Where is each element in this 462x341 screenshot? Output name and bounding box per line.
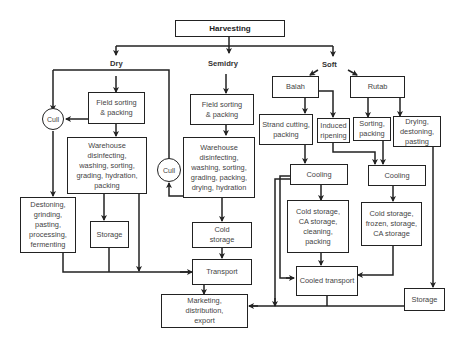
transport-label: Transport	[206, 267, 237, 277]
strand-cutting-label: Strand cutting, packing	[262, 120, 310, 140]
dry-destoning-label: Destoning, grinding, pasting, processing…	[29, 200, 67, 250]
dry-field-sorting-box: Field sorting & packing	[88, 92, 145, 124]
induced-ripening-label: Induced ripening	[320, 121, 346, 141]
dry-warehouse-label: Warehouse disinfecting, washing, sorting…	[76, 141, 137, 191]
soft-label: Soft	[322, 60, 337, 69]
semidry-label: Semidry	[208, 59, 238, 68]
cooled-transport-box: Cooled transport	[296, 266, 358, 296]
marketing-box: Marketing, distribution, export	[161, 294, 248, 328]
rutab-cooling-label: Cooling	[384, 171, 409, 181]
rutab-cooling-box: Cooling	[368, 165, 426, 186]
dry-label: Dry	[110, 59, 123, 68]
dry-warehouse-box: Warehouse disinfecting, washing, sorting…	[67, 137, 147, 194]
balah-cooling-box: Cooling	[290, 164, 348, 185]
cooled-transport-label: Cooled transport	[300, 276, 355, 286]
semidry-warehouse-box: Warehouse disinfecting, washing, sorting…	[183, 137, 255, 198]
harvesting-box: Harvesting	[175, 20, 285, 37]
semidry-cull-circle: Cull	[157, 158, 181, 182]
transport-box: Transport	[192, 259, 252, 285]
dry-storage-box: Storage	[90, 221, 129, 248]
rutab-drying-box: Drying, destoning, pasting	[393, 116, 441, 147]
rutab-drying-label: Drying, destoning, pasting	[400, 117, 434, 147]
rutab-cold-storage-box: Cold storage, frozen, storage, CA storag…	[361, 202, 422, 246]
rutab-label: Rutab	[368, 82, 388, 92]
dry-storage-label: Storage	[97, 230, 123, 240]
balah-label: Balah	[286, 82, 305, 92]
marketing-label: Marketing, distribution, export	[186, 296, 224, 326]
rutab-sorting-label: Sorting, packing	[359, 119, 384, 139]
rutab-storage-box: Storage	[404, 288, 445, 311]
semidry-field-sorting-label: Field sorting & packing	[202, 100, 242, 120]
semidry-cold-storage-box: Cold storage	[192, 222, 252, 248]
rutab-cold-storage-label: Cold storage, frozen, storage, CA storag…	[366, 209, 417, 239]
strand-cutting-box: Strand cutting, packing	[259, 114, 313, 145]
rutab-box: Rutab	[350, 76, 405, 98]
dry-field-sorting-label: Field sorting & packing	[96, 98, 136, 118]
balah-cold-storage-box: Cold storage, CA storage, cleaning, pack…	[287, 200, 349, 253]
rutab-sorting-box: Sorting, packing	[353, 117, 391, 141]
balah-cold-storage-label: Cold storage, CA storage, cleaning, pack…	[296, 207, 340, 247]
dry-cull-circle: Cull	[42, 108, 64, 130]
dry-destoning-box: Destoning, grinding, pasting, processing…	[20, 197, 76, 253]
semidry-cold-storage-label: Cold storage	[210, 225, 235, 245]
harvesting-label: Harvesting	[209, 24, 250, 34]
rutab-storage-label: Storage	[412, 295, 438, 305]
semidry-warehouse-label: Warehouse disinfecting, washing, sorting…	[191, 143, 247, 193]
balah-box: Balah	[272, 76, 319, 98]
semidry-field-sorting-box: Field sorting & packing	[190, 94, 254, 125]
balah-cooling-label: Cooling	[306, 170, 331, 180]
induced-ripening-box: Induced ripening	[317, 118, 350, 143]
semidry-cull-label: Cull	[163, 167, 175, 174]
dry-cull-label: Cull	[47, 116, 59, 123]
